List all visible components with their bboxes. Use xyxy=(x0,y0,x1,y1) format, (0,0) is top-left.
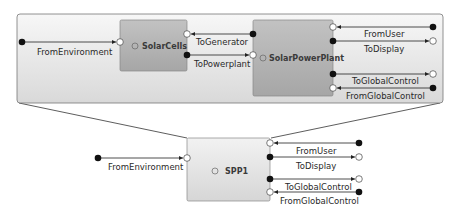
spp1-signal-from-user[interactable]: FromUser xyxy=(267,140,363,156)
block-spp1[interactable]: SPP1 xyxy=(187,138,270,201)
svg-text:FromEnvironment: FromEnvironment xyxy=(108,162,184,172)
svg-text:ToPowerplant: ToPowerplant xyxy=(193,59,251,69)
block-label: SolarCells xyxy=(142,42,187,51)
block-solarcells[interactable]: SolarCells xyxy=(120,20,187,71)
svg-text:FromGlobalControl: FromGlobalControl xyxy=(346,91,425,101)
svg-text:FromUser: FromUser xyxy=(296,146,337,156)
svg-text:ToDisplay: ToDisplay xyxy=(295,161,336,171)
block-solarpowerplant[interactable]: SolarPowerPlant xyxy=(253,20,344,96)
svg-text:ToDisplay: ToDisplay xyxy=(363,44,404,54)
svg-text:ToGenerator: ToGenerator xyxy=(195,37,249,47)
svg-text:ToGlobalControl: ToGlobalControl xyxy=(284,182,352,192)
block-label: SPP1 xyxy=(225,167,248,176)
svg-text:ToGlobalControl: ToGlobalControl xyxy=(351,76,419,86)
spp1-signal-to-display[interactable]: ToDisplay xyxy=(267,154,363,171)
svg-text:FromGlobalControl: FromGlobalControl xyxy=(280,196,359,206)
spp1-signal-to-global-control[interactable]: ToGlobalControl xyxy=(267,176,363,192)
block-label: SolarPowerPlant xyxy=(269,54,344,63)
diagram-canvas: SolarCells SolarPowerPlant FromEnvironme… xyxy=(0,0,457,213)
zoom-connector xyxy=(19,103,440,138)
svg-text:FromUser: FromUser xyxy=(364,29,405,39)
svg-text:FromEnvironment: FromEnvironment xyxy=(37,47,113,57)
spp1-signal-from-environment[interactable]: FromEnvironment xyxy=(95,155,191,172)
port-source xyxy=(19,39,26,46)
port-input xyxy=(117,39,124,46)
